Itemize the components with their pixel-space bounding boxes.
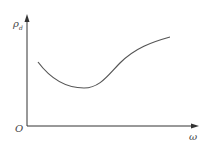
x-axis-arrow-icon [191, 124, 199, 129]
x-axis-label: ω [189, 132, 197, 142]
origin-label: O [15, 124, 23, 134]
data-curve [38, 37, 170, 88]
y-axis-label: ρd [13, 19, 23, 31]
y-axis-arrow-icon [25, 14, 30, 22]
chart-canvas [0, 0, 210, 150]
